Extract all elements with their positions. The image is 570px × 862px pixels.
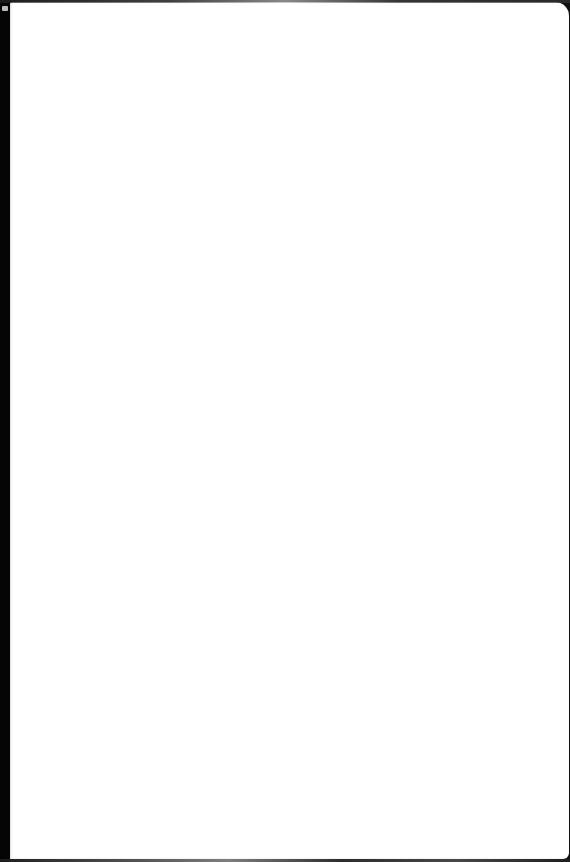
blank-paper-sheet bbox=[10, 2, 569, 859]
photo-scene bbox=[0, 0, 570, 862]
top-shadow-edge bbox=[0, 0, 570, 3]
corner-mark bbox=[2, 6, 8, 11]
dark-left-border bbox=[0, 0, 10, 862]
